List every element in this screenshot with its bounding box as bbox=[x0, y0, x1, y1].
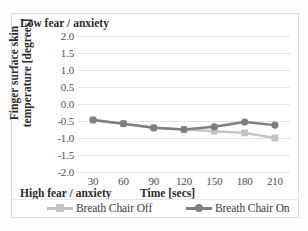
x-tick-label: 90 bbox=[141, 175, 167, 187]
y-tick-label: -0.5 bbox=[40, 116, 74, 126]
y-tick-label: 0.5 bbox=[40, 82, 74, 92]
data-point bbox=[120, 120, 127, 127]
plot-area bbox=[78, 36, 290, 172]
y-tick-label: 1.5 bbox=[40, 48, 74, 58]
x-tick-label: 150 bbox=[201, 175, 227, 187]
x-axis-title: Time [secs] bbox=[140, 187, 195, 199]
data-point bbox=[90, 116, 97, 123]
legend-swatch-on-icon bbox=[186, 203, 212, 213]
x-tick-label: 30 bbox=[80, 175, 106, 187]
series-breath-chair-on bbox=[90, 116, 279, 133]
data-point bbox=[241, 130, 248, 137]
x-tick-label: 210 bbox=[262, 175, 288, 187]
data-point bbox=[211, 123, 218, 130]
high-anxiety-annotation: High fear / anxiety bbox=[20, 187, 111, 199]
x-tick-label: 120 bbox=[171, 175, 197, 187]
data-point bbox=[272, 135, 279, 142]
x-tick-label: 180 bbox=[232, 175, 258, 187]
data-point bbox=[241, 118, 248, 125]
y-tick-label: 2.0 bbox=[40, 31, 74, 41]
y-axis-tick-labels: 2.01.51.00.50.0-0.5-1.0-1.5-2.0 bbox=[38, 36, 74, 172]
y-tick-label: -1.0 bbox=[40, 133, 74, 143]
legend-swatch-off-icon bbox=[47, 203, 73, 213]
legend-item-breath-chair-on[interactable]: Breath Chair On bbox=[186, 202, 290, 214]
legend-label-off: Breath Chair Off bbox=[76, 202, 152, 214]
legend-label-on: Breath Chair On bbox=[215, 202, 290, 214]
y-tick-label: 1.0 bbox=[40, 65, 74, 75]
y-axis-title-line2: temperature [degrees] bbox=[21, 5, 34, 141]
data-point bbox=[180, 126, 187, 133]
data-point bbox=[271, 122, 278, 129]
data-point bbox=[150, 124, 157, 131]
chart-legend: Breath Chair Off Breath Chair On bbox=[11, 199, 299, 219]
y-tick-label: -2.0 bbox=[40, 167, 74, 177]
y-tick-label: -1.5 bbox=[40, 150, 74, 160]
gridline bbox=[78, 172, 290, 173]
series-layer bbox=[78, 36, 290, 172]
y-axis-title: Finger surface skin temperature [degrees… bbox=[8, 5, 34, 141]
y-tick-label: 0.0 bbox=[40, 99, 74, 109]
y-axis-title-line1: Finger surface skin bbox=[8, 5, 21, 141]
x-tick-label: 60 bbox=[110, 175, 136, 187]
chart-figure: Low fear / anxiety Finger surface skin t… bbox=[0, 0, 308, 231]
legend-item-breath-chair-off[interactable]: Breath Chair Off bbox=[47, 202, 152, 214]
